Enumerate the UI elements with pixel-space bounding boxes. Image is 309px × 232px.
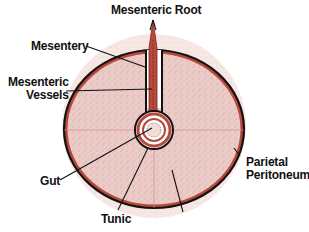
label-tunic: Tunic [101, 213, 131, 226]
label-mesenteric-vessels-line2: Vessels [8, 89, 69, 102]
label-mesentery: Mesentery [31, 40, 89, 53]
label-mesenteric-root: Mesenteric Root [111, 4, 201, 17]
gut-ring [135, 111, 173, 149]
label-parietal-peritoneum: Parietal Peritoneum [246, 156, 309, 182]
label-gut: Gut [40, 175, 60, 188]
cross-section-illustration [0, 0, 309, 232]
label-mesenteric-vessels: Mesenteric Vessels [8, 76, 69, 102]
diagram-canvas: Mesenteric Root Mesentery Mesenteric Ves… [0, 0, 309, 232]
mesentery-stalk [146, 20, 162, 112]
label-parietal-peritoneum-line2: Peritoneum [246, 169, 309, 182]
